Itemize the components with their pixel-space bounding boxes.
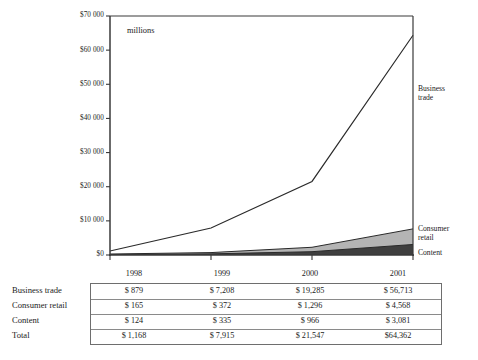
table-row-divider-2 bbox=[91, 314, 441, 315]
y-tick-label-1: $10 000 bbox=[40, 216, 104, 224]
table-cell: $ 7,208 bbox=[178, 286, 266, 295]
series-label-business-trade: Business trade bbox=[418, 84, 445, 102]
table-cell: $ 1,296 bbox=[266, 301, 354, 310]
chart-canvas bbox=[0, 0, 478, 272]
row-label-consumer-retail: Consumer retail bbox=[12, 300, 67, 310]
table-cell: $ 56,713 bbox=[354, 286, 442, 295]
row-label-total: Total bbox=[12, 330, 30, 340]
series-label-business-trade-line2: trade bbox=[418, 93, 445, 102]
table-cell: $ 879 bbox=[90, 286, 178, 295]
table-cell: $ 4,568 bbox=[354, 301, 442, 310]
series-label-consumer-retail-line2: retail bbox=[418, 233, 449, 242]
column-header-2001: 2001 bbox=[354, 269, 442, 278]
row-label-business-trade: Business trade bbox=[12, 285, 62, 295]
table-cell: $64,362 bbox=[354, 331, 442, 340]
y-tick-label-7: $70 000 bbox=[40, 11, 104, 19]
y-tick-label-2: $20 000 bbox=[40, 182, 104, 190]
table-cell: $ 335 bbox=[178, 316, 266, 325]
y-tick-label-3: $30 000 bbox=[40, 148, 104, 156]
stacked-area-chart: $0 $10 000 $20 000 $30 000 $40 000 $50 0… bbox=[0, 0, 478, 272]
table-cell: $ 966 bbox=[266, 316, 354, 325]
y-tick-label-0: $0 bbox=[40, 250, 104, 258]
series-label-business-trade-line1: Business bbox=[418, 84, 445, 93]
series-label-content: Content bbox=[418, 248, 442, 257]
y-tick-label-4: $40 000 bbox=[40, 114, 104, 122]
series-label-consumer-retail-line1: Consumer bbox=[418, 224, 449, 233]
data-table: 1998 1999 2000 2001 Business trade Consu… bbox=[0, 268, 478, 360]
table-cell: $ 1,168 bbox=[90, 331, 178, 340]
table-cell: $ 19,285 bbox=[266, 286, 354, 295]
table-cell: $ 3,081 bbox=[354, 316, 442, 325]
table-cell: $ 124 bbox=[90, 316, 178, 325]
table-cell: $ 7,915 bbox=[178, 331, 266, 340]
table-column-header-row: 1998 1999 2000 2001 bbox=[0, 268, 478, 283]
units-annotation: millions bbox=[127, 26, 154, 35]
table-row-divider-1 bbox=[91, 299, 441, 300]
series-label-consumer-retail: Consumer retail bbox=[418, 224, 449, 242]
chart-page: $0 $10 000 $20 000 $30 000 $40 000 $50 0… bbox=[0, 0, 478, 360]
series-label-content-line1: Content bbox=[418, 248, 442, 257]
column-header-1999: 1999 bbox=[178, 269, 266, 278]
row-label-content: Content bbox=[12, 315, 39, 325]
table-cell: $ 372 bbox=[178, 301, 266, 310]
y-tick-label-6: $60 000 bbox=[40, 46, 104, 54]
column-header-1998: 1998 bbox=[90, 269, 178, 278]
y-tick-label-5: $50 000 bbox=[40, 80, 104, 88]
table-cell: $ 21,547 bbox=[266, 331, 354, 340]
column-header-2000: 2000 bbox=[266, 269, 354, 278]
table-row-divider-3 bbox=[91, 329, 441, 330]
table-cell: $ 165 bbox=[90, 301, 178, 310]
